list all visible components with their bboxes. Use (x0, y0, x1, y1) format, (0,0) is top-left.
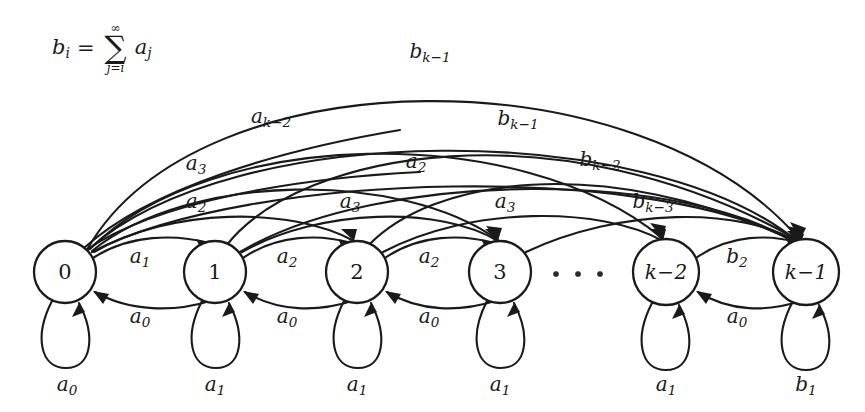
arrowhead-2-to-1 (243, 291, 259, 304)
edge-label-3-to-2: a0 (419, 306, 440, 329)
edge-label-2-to-1: a0 (277, 306, 298, 329)
arc-label-a3-mid: a3 (340, 191, 361, 214)
edge-label-0-to-1: a1 (130, 246, 151, 269)
ellipsis-dot-2 (575, 271, 580, 276)
self-loop-label-k-1: b1 (795, 374, 816, 397)
self-loop-label-3: a1 (490, 374, 511, 397)
self-loop-label-2: a1 (347, 374, 368, 397)
self-loop-label-0: a0 (57, 374, 78, 397)
arc-2-to-k1-cross (368, 184, 797, 246)
arrowhead-3-to-2 (385, 291, 401, 304)
edge-label-2-to-3: a2 (419, 246, 440, 269)
arc-label-ak2: ak−2 (251, 106, 291, 129)
node-label-2: 2 (350, 260, 363, 284)
self-loop-label-1: a1 (205, 374, 226, 397)
arc-1-to-k1-tier3 (240, 189, 800, 252)
arrowhead-k1-to-k2 (696, 291, 712, 304)
arrowhead-1-to-0 (93, 291, 109, 304)
edge-label-1-to-0: a0 (130, 306, 151, 329)
edge-label-k1-to-k2: a0 (727, 306, 748, 329)
arc-label-bk1-top: bk−1 (409, 41, 450, 64)
arc-label-a3-right: a3 (495, 191, 516, 214)
node-label-0: 0 (58, 260, 71, 284)
arc-label-bk3: bk−3 (632, 191, 673, 214)
node-label-k-2: k−2 (645, 260, 688, 284)
arc-label-a2-mid: a2 (406, 151, 427, 174)
node-label-1: 1 (208, 260, 221, 284)
arrowhead-self-loop-1 (222, 303, 235, 317)
ellipsis-dot-1 (553, 271, 558, 276)
arc-label-bk2: bk−2 (579, 149, 620, 172)
arrowhead-self-loop-k2 (672, 305, 685, 319)
arrowhead-self-loop-3 (507, 303, 520, 317)
node-label-3: 3 (493, 260, 506, 284)
node-label-k-1: k−1 (785, 260, 828, 284)
edge-label-k2-to-k1: b2 (726, 246, 747, 269)
arrowhead-self-loop-0 (72, 303, 85, 317)
self-loop-label-k-2: a1 (656, 374, 677, 397)
arc-label-a3-left: a3 (186, 153, 207, 176)
arc-label-a2-left: a2 (186, 191, 207, 214)
arrowhead-self-loop-2 (364, 303, 377, 317)
arc-0-to-k2-tier2 (90, 154, 662, 249)
ellipsis-dot-3 (597, 271, 602, 276)
edge-label-1-to-2: a2 (277, 246, 298, 269)
arc-label-bk1-mid: bk−1 (497, 108, 538, 131)
state-diagram: bi = ∞ ∑ j=i aj (0, 0, 865, 412)
arrowhead-self-loop-k1 (812, 305, 825, 319)
